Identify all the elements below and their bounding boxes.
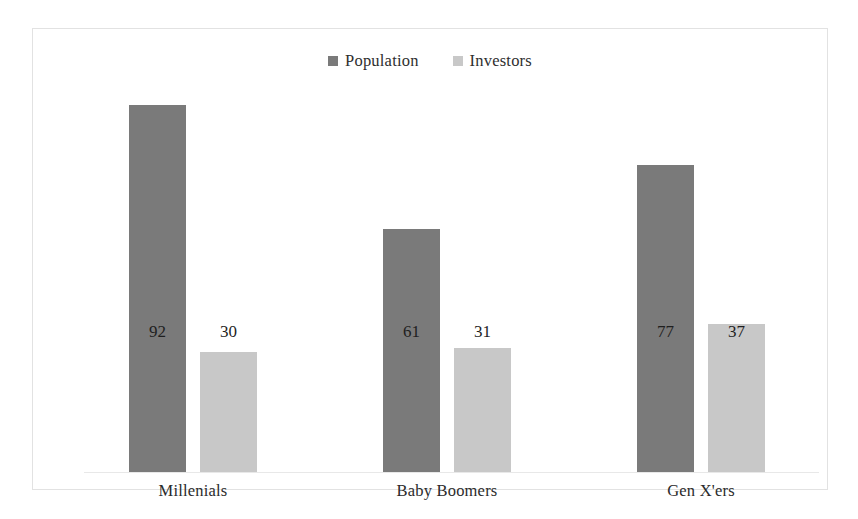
bar-population[interactable]: 77 bbox=[637, 165, 694, 472]
bar-population[interactable]: 92 bbox=[129, 105, 186, 472]
bar-groups: 923061317737 bbox=[66, 89, 828, 472]
bar-group: 6131 bbox=[320, 89, 574, 472]
legend-swatch-investors bbox=[453, 56, 463, 66]
legend-entry-investors: Investors bbox=[453, 51, 532, 71]
category-label: Millenials bbox=[66, 481, 320, 501]
bar-value-label: 92 bbox=[129, 322, 186, 342]
bar-group: 7737 bbox=[574, 89, 828, 472]
category-label: Gen X'ers bbox=[574, 481, 828, 501]
bar-value-label: 77 bbox=[637, 322, 694, 342]
bar-population[interactable]: 61 bbox=[383, 229, 440, 472]
x-axis-baseline bbox=[84, 472, 819, 473]
bar-value-label: 61 bbox=[383, 322, 440, 342]
category-label: Baby Boomers bbox=[320, 481, 574, 501]
legend-entry-population: Population bbox=[328, 51, 419, 71]
bar-value-label: 30 bbox=[200, 322, 257, 342]
chart-plot-area: 923061317737 bbox=[66, 89, 828, 473]
legend-label-population: Population bbox=[345, 51, 419, 71]
bar-investors[interactable]: 31 bbox=[454, 348, 511, 472]
x-axis-category-labels: MillenialsBaby BoomersGen X'ers bbox=[66, 481, 828, 501]
bar-value-label: 31 bbox=[454, 322, 511, 342]
bar-group: 9230 bbox=[66, 89, 320, 472]
chart-figure-frame: Population Investors 923061317737 Millen… bbox=[32, 28, 828, 490]
bar-value-label: 37 bbox=[708, 322, 765, 342]
legend-label-investors: Investors bbox=[470, 51, 532, 71]
bar-investors[interactable]: 30 bbox=[200, 352, 257, 472]
bar-investors[interactable]: 37 bbox=[708, 324, 765, 472]
chart-legend: Population Investors bbox=[33, 51, 827, 71]
legend-swatch-population bbox=[328, 56, 338, 66]
